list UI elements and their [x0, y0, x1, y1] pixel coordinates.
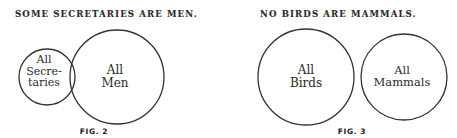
- fig2-caption: FIG. 2: [80, 127, 108, 136]
- mammals-label: All Mammals: [374, 64, 431, 88]
- men-label-line1: All: [101, 64, 128, 77]
- birds-label-line1: All: [290, 64, 322, 77]
- fig3-caption: FIG. 3: [338, 127, 366, 136]
- men-label: All Men: [101, 64, 128, 89]
- secretaries-label-line1: All: [26, 54, 62, 66]
- mammals-label-line2: Mammals: [374, 76, 431, 88]
- birds-label: All Birds: [290, 64, 322, 89]
- birds-label-line2: Birds: [290, 77, 322, 90]
- secretaries-label-line3: taries: [26, 77, 62, 89]
- men-label-line2: Men: [101, 77, 128, 90]
- secretaries-label: All Secre- taries: [26, 54, 62, 89]
